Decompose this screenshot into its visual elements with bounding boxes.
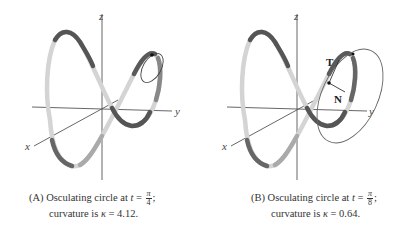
panel-b-plot: z y x T N xyxy=(205,0,409,190)
curvature-label: curvature is xyxy=(49,208,101,219)
fraction-denominator: 8 xyxy=(367,199,373,207)
panel-a-plot: z y x xyxy=(0,0,205,190)
z-axis-label: z xyxy=(293,10,299,22)
axes xyxy=(32,14,172,180)
caption-b: (B) Osculating circle at t = π8; curvatu… xyxy=(251,190,377,220)
axes xyxy=(227,14,367,180)
y-axis-label: y xyxy=(174,105,180,117)
curvature-value: = 4.12. xyxy=(106,208,138,219)
x-axis-label: x xyxy=(24,140,30,152)
caption-line2: curvature is κ = 0.64. xyxy=(251,207,377,220)
z-axis-label: z xyxy=(98,10,104,22)
point-marker-top xyxy=(352,53,355,56)
normal-label: N xyxy=(334,93,342,105)
equals-sign: = xyxy=(133,192,144,203)
x-axis-label: x xyxy=(221,140,227,152)
fraction-denominator: 4 xyxy=(146,199,152,207)
caption-prefix: (B) Osculating circle at xyxy=(251,192,352,203)
space-curve xyxy=(47,32,160,166)
caption-prefix: (A) Osculating circle at xyxy=(29,192,130,203)
point-marker xyxy=(327,81,331,85)
caption-suffix: ; xyxy=(153,192,156,203)
fraction: π4 xyxy=(146,190,152,207)
tangent-label: T xyxy=(326,56,334,68)
curvature-label: curvature is xyxy=(271,208,323,219)
caption-line2: curvature is κ = 4.12. xyxy=(29,207,156,220)
point-marker xyxy=(150,53,154,57)
caption-a: (A) Osculating circle at t = π4; curvatu… xyxy=(29,190,156,220)
normal-vector xyxy=(329,83,345,92)
y-axis-label: y xyxy=(368,105,374,117)
equals-sign: = xyxy=(355,192,366,203)
fraction: π8 xyxy=(367,190,373,207)
panel-a: z y x (A) Osculating circle at t = π4; c… xyxy=(0,0,205,236)
panel-b: z y x T N (B) Osculating circle at t = π… xyxy=(205,0,409,236)
caption-suffix: ; xyxy=(374,192,377,203)
curvature-value: = 0.64. xyxy=(328,208,360,219)
